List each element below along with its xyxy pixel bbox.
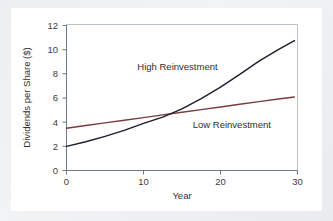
x-axis-tick-labels: 0 10 20 30 [64, 176, 303, 187]
series-line-high-reinvestment [67, 41, 295, 147]
y-axis-title: Dividends per Share ($) [21, 47, 32, 147]
x-axis-ticks [67, 171, 298, 175]
x-tick-label-10: 10 [138, 176, 149, 187]
y-tick-label-2: 2 [53, 141, 58, 152]
y-tick-label-10: 10 [47, 44, 58, 55]
y-tick-label-0: 0 [53, 165, 58, 176]
x-tick-label-20: 20 [215, 176, 226, 187]
figure-root: 0 2 4 6 8 10 12 0 10 20 30 Year Dividend… [0, 0, 333, 221]
x-axis-title: Year [172, 190, 191, 201]
y-tick-label-12: 12 [47, 20, 58, 31]
plot-frame [67, 25, 298, 171]
y-tick-label-6: 6 [53, 92, 58, 103]
dividends-line-chart: 0 2 4 6 8 10 12 0 10 20 30 Year Dividend… [0, 0, 333, 221]
y-tick-label-4: 4 [53, 117, 58, 128]
x-tick-label-0: 0 [64, 176, 69, 187]
y-axis-ticks [63, 26, 67, 171]
y-axis-tick-labels: 0 2 4 6 8 10 12 [47, 20, 58, 176]
x-tick-label-30: 30 [292, 176, 303, 187]
annotation-low-reinvestment: Low Reinvestment [193, 119, 272, 130]
y-tick-label-8: 8 [53, 68, 58, 79]
annotation-high-reinvestment: High Reinvestment [137, 61, 218, 72]
